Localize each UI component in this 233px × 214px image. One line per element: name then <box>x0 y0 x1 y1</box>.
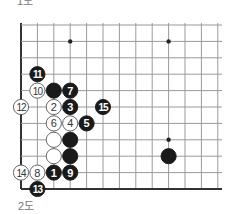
white-stone <box>46 132 61 147</box>
move-number: 3 <box>67 101 73 113</box>
black-stone <box>63 149 78 164</box>
stone-icon <box>46 83 61 98</box>
white-stone: 14 <box>13 165 28 180</box>
move-number: 11 <box>33 69 43 80</box>
black-stone <box>63 132 78 147</box>
black-stone: 15 <box>95 99 110 114</box>
move-number: 10 <box>33 86 44 97</box>
move-number: 8 <box>34 167 40 179</box>
move-number: 7 <box>67 85 73 97</box>
stone-icon <box>63 132 78 147</box>
diagram-caption-bottom: 2도 <box>18 197 34 213</box>
black-stone: 13 <box>30 181 45 196</box>
stone-icon <box>161 149 176 164</box>
black-stone: 5 <box>79 116 94 131</box>
white-stone: 2 <box>46 99 61 114</box>
white-stone: 10 <box>30 83 45 98</box>
move-number: 6 <box>51 117 57 129</box>
black-stone: 9 <box>63 165 78 180</box>
black-stone: 3 <box>63 99 78 114</box>
move-number: 14 <box>16 168 27 179</box>
black-stone: 1 <box>46 165 61 180</box>
go-board: 111071223156451481913 <box>0 0 233 214</box>
move-number: 12 <box>16 102 27 113</box>
move-number: 2 <box>51 101 57 113</box>
move-number: 5 <box>84 117 90 129</box>
black-stone: 11 <box>30 67 45 82</box>
stone-icon <box>46 149 61 164</box>
white-stone: 6 <box>46 116 61 131</box>
white-stone <box>46 149 61 164</box>
black-stone <box>161 149 176 164</box>
move-number: 1 <box>51 167 57 179</box>
white-stone: 4 <box>63 116 78 131</box>
star-point-icon <box>166 39 170 43</box>
move-number: 15 <box>98 102 109 113</box>
black-stone <box>46 83 61 98</box>
move-number: 13 <box>33 184 44 195</box>
move-number: 4 <box>67 117 73 129</box>
white-stone: 8 <box>30 165 45 180</box>
star-point-icon <box>68 39 72 43</box>
move-number: 9 <box>67 167 73 179</box>
black-stone: 7 <box>63 83 78 98</box>
white-stone: 12 <box>13 99 28 114</box>
stone-icon <box>63 149 78 164</box>
stone-icon <box>46 132 61 147</box>
star-point-icon <box>166 138 170 142</box>
